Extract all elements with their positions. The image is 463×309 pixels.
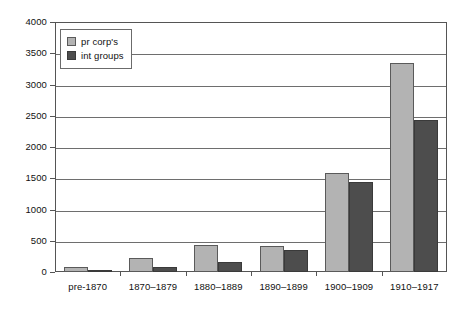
bar — [194, 245, 218, 273]
y-axis-tick-label: 2500 — [25, 109, 47, 122]
y-axis-tick-label: 500 — [31, 234, 47, 247]
x-axis-tick-label: 1870–1879 — [120, 280, 185, 293]
legend-swatch-dark-icon — [67, 51, 76, 60]
x-axis-tick-label: 1910–1917 — [382, 280, 447, 293]
bar-group — [316, 22, 381, 272]
x-axis-tick-mark — [382, 272, 383, 276]
y-axis-tick-label: 3000 — [25, 78, 47, 91]
bar — [129, 258, 153, 272]
legend-item-label: int groups — [81, 50, 124, 62]
x-axis-tick-mark — [186, 272, 187, 276]
x-axis-tick-label: pre-1870 — [55, 280, 120, 293]
y-axis-tick-label: 1500 — [25, 171, 47, 184]
bar-group — [382, 22, 447, 272]
x-axis-tick-mark — [316, 272, 317, 276]
y-axis-tick-label: 0 — [42, 265, 47, 278]
x-axis: pre-18701870–18791880–18891890–18991900–… — [55, 272, 447, 309]
bar — [325, 173, 349, 272]
x-axis-tick-label: 1890–1899 — [251, 280, 316, 293]
legend-item: pr corp's — [67, 35, 124, 48]
bar-chart: 05001000150020002500300035004000 pre-187… — [0, 0, 463, 309]
bar-group — [251, 22, 316, 272]
y-axis-tick-label: 3500 — [25, 46, 47, 59]
y-axis-tick-label: 4000 — [25, 15, 47, 28]
y-axis-tick-label: 1000 — [25, 203, 47, 216]
x-axis-tick-mark — [251, 272, 252, 276]
legend-swatch-light-icon — [67, 37, 76, 46]
bar — [414, 120, 438, 272]
y-axis-tick-label: 2000 — [25, 140, 47, 153]
bar — [260, 246, 284, 272]
x-axis-tick-mark — [120, 272, 121, 276]
y-axis: 05001000150020002500300035004000 — [0, 22, 55, 272]
legend-item: int groups — [67, 49, 124, 62]
bar — [218, 262, 242, 272]
chart-legend: pr corp's int groups — [60, 29, 132, 69]
x-axis-tick-label: 1880–1889 — [186, 280, 251, 293]
x-axis-tick-label: 1900–1909 — [316, 280, 381, 293]
bar-group — [186, 22, 251, 272]
bar — [284, 250, 308, 272]
legend-item-label: pr corp's — [81, 36, 118, 48]
bar — [390, 63, 414, 272]
bar — [349, 182, 373, 272]
